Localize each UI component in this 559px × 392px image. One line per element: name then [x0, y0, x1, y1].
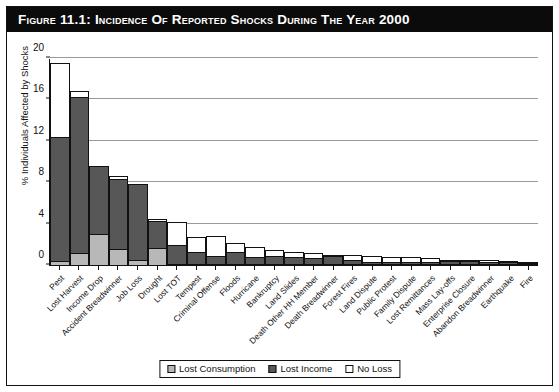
x-tick-mark [352, 266, 353, 270]
bar-column[interactable] [50, 59, 70, 265]
legend-label: No Loss [357, 363, 392, 374]
bar-segment-lost-income [109, 179, 129, 250]
bar-column[interactable] [343, 59, 363, 265]
bar-stack [226, 243, 246, 265]
x-tick-mark [215, 266, 216, 270]
y-tick-label: 8 [38, 166, 44, 177]
bar-column[interactable] [89, 59, 109, 265]
bar-segment-lost-income [128, 184, 148, 261]
bar-column[interactable] [284, 59, 304, 265]
bar-stack [284, 252, 304, 265]
bar-stack [167, 222, 187, 265]
x-tick-mark [372, 266, 373, 270]
x-tick-mark [176, 266, 177, 270]
y-tick-label: 20 [33, 42, 44, 53]
bar-stack [323, 255, 343, 265]
bar-column[interactable] [265, 59, 285, 265]
bar-stack [479, 260, 499, 265]
bar-stack [460, 260, 480, 265]
bar-segment-lost-consumption [89, 234, 109, 266]
bar-segment-no-loss [167, 222, 187, 246]
figure-container: Figure 11.1: Incidence of Reported Shock… [6, 6, 553, 386]
bar-segment-lost-income [50, 137, 70, 262]
bar-segment-no-loss [187, 237, 207, 253]
bar-segment-no-loss [206, 236, 226, 257]
x-tick-mark [489, 266, 490, 270]
bar-segment-lost-consumption [148, 248, 168, 266]
bar-stack [89, 166, 109, 265]
x-tick-mark [235, 266, 236, 270]
bar-stack [245, 247, 265, 265]
y-tick-label: 0 [38, 249, 44, 260]
bar-segment-lost-income [148, 221, 168, 249]
x-tick-mark [470, 266, 471, 270]
bar-column[interactable] [128, 59, 148, 265]
bar-column[interactable] [362, 59, 382, 265]
bar-stack [401, 257, 421, 265]
y-axis-title: % Individuals Affected by Shocks [19, 36, 30, 196]
bar-column[interactable] [148, 59, 168, 265]
x-tick-mark [137, 266, 138, 270]
bar-stack [70, 91, 90, 265]
bar-stack [440, 260, 460, 265]
bar-column[interactable] [167, 59, 187, 265]
x-tick-mark [78, 266, 79, 270]
bar-segment-lost-income [89, 166, 109, 235]
bar-segment-no-loss [50, 63, 70, 138]
bar-stack [187, 237, 207, 265]
x-tick-mark [509, 266, 510, 270]
y-tick-label: 12 [33, 124, 44, 135]
y-tick-label: 4 [38, 207, 44, 218]
x-tick-mark [157, 266, 158, 270]
legend-item[interactable]: Lost Consumption [167, 363, 256, 374]
bar-column[interactable] [206, 59, 226, 265]
bar-segment-lost-consumption [70, 253, 90, 266]
plot-frame: 048121620 [49, 59, 538, 266]
bar-column[interactable] [518, 59, 538, 265]
x-tick-mark [117, 266, 118, 270]
bar-segment-lost-income [70, 97, 90, 253]
x-label-cell: Fire [519, 271, 539, 363]
bar-column[interactable] [401, 59, 421, 265]
bar-segment-lost-consumption [109, 249, 129, 266]
x-tick-mark [98, 266, 99, 270]
bar-column[interactable] [440, 59, 460, 265]
bar-column[interactable] [499, 59, 519, 265]
x-tick-mark [450, 266, 451, 270]
bar-column[interactable] [421, 59, 441, 265]
y-tick-label: 16 [33, 83, 44, 94]
bar-stack [206, 236, 226, 265]
bar-stack [148, 219, 168, 265]
bar-stack [304, 253, 324, 265]
x-tick-mark [411, 266, 412, 270]
bar-column[interactable] [187, 59, 207, 265]
x-tick-mark [274, 266, 275, 270]
bar-stack [421, 258, 441, 265]
chart-area: % Individuals Affected by Shocks 0481216… [7, 32, 552, 385]
bar-column[interactable] [460, 59, 480, 265]
bar-column[interactable] [382, 59, 402, 265]
bar-stack [109, 176, 129, 265]
bar-column[interactable] [70, 59, 90, 265]
bar-stack [518, 262, 538, 265]
bar-column[interactable] [226, 59, 246, 265]
legend-swatch-noloss [345, 365, 353, 373]
x-tick-mark [254, 266, 255, 270]
bar-column[interactable] [323, 59, 343, 265]
bar-stack [265, 250, 285, 265]
y-tick-mark [46, 57, 50, 58]
bar-column[interactable] [304, 59, 324, 265]
bar-column[interactable] [479, 59, 499, 265]
x-tick-mark [391, 266, 392, 270]
bar-stack [499, 261, 519, 265]
x-label-cell: Earthquake [499, 271, 519, 363]
legend-item[interactable]: Lost Income [268, 363, 332, 374]
chart-legend: Lost ConsumptionLost IncomeNo Loss [159, 360, 400, 378]
legend-swatch-income [268, 365, 276, 373]
bar-stack [50, 63, 70, 265]
legend-item[interactable]: No Loss [345, 363, 392, 374]
bar-stack [362, 256, 382, 265]
bar-column[interactable] [109, 59, 129, 265]
legend-label: Lost Consumption [179, 363, 256, 374]
bar-column[interactable] [245, 59, 265, 265]
